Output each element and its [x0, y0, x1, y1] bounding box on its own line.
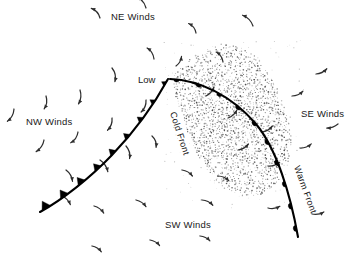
front-diagram-figure: Low NE Winds NW Winds SE Winds SW Winds … [0, 0, 354, 254]
wind-arrow-head [206, 237, 210, 241]
wind-arrow [91, 8, 100, 18]
wind-arrow-head [299, 91, 303, 95]
warm-front-group [170, 79, 298, 237]
cold-front-group [40, 79, 168, 212]
low-pressure-label: Low [138, 74, 156, 85]
warm-front-pip [174, 79, 180, 82]
wind-arrow-head [327, 126, 331, 130]
ne-winds-label: NE Winds [111, 11, 155, 22]
nw-winds-label: NW Winds [26, 116, 73, 127]
cold-front-line [40, 79, 168, 212]
cyclone-diagram-canvas: Low NE Winds NW Winds SE Winds SW Winds … [0, 0, 354, 254]
sw-winds-label: SW Winds [165, 219, 211, 230]
wind-arrow [137, 0, 146, 8]
cold-front-label: Cold Front [168, 111, 191, 157]
cold-front-pips [42, 82, 167, 211]
warm-front-label: Warm Front [292, 164, 319, 215]
wind-arrow-head [108, 126, 112, 130]
se-winds-label: SE Winds [301, 108, 344, 119]
warm-front-line [170, 79, 298, 237]
